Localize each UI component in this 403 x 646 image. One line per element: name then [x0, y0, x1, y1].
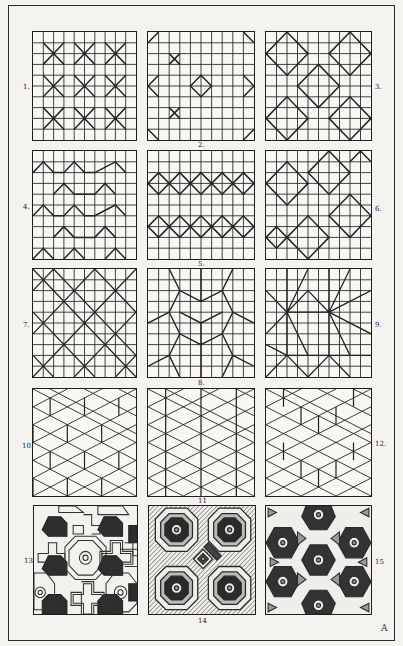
- cube-lattice-pattern: [33, 389, 136, 496]
- tile-14: [148, 505, 256, 615]
- sparse-diagonal-pattern: [148, 32, 254, 140]
- hexagon-triangle-shaded-pattern: [266, 506, 371, 614]
- triangular-lattice-pattern: [148, 389, 254, 496]
- tile-14-label: 14: [198, 618, 207, 625]
- tile-4-label: 4.: [23, 204, 30, 211]
- tile-7-label: 7.: [23, 322, 30, 329]
- tile-11: [147, 388, 255, 497]
- tile-5-label: 5.: [198, 261, 205, 268]
- tile-5: [147, 150, 255, 260]
- diamond-pattern: [266, 32, 371, 140]
- artist-monogram: A: [381, 623, 388, 633]
- octagon-diamond-shaded-pattern: [149, 506, 255, 614]
- tile-2-label: 2.: [198, 142, 205, 149]
- dense-diamond-pattern: [266, 151, 371, 259]
- octagon-cross-shaded-pattern: [34, 506, 137, 614]
- tile-4: [32, 150, 137, 260]
- hexagon-lattice-pattern: [266, 389, 371, 496]
- tile-11-label: 11: [198, 498, 207, 505]
- tile-13-label: 13: [24, 558, 33, 565]
- tile-3: [265, 31, 372, 141]
- star-polygon-pattern: [148, 269, 254, 377]
- tile-6: [265, 150, 372, 260]
- tile-10: [32, 388, 137, 497]
- tile-8-label: 8.: [198, 380, 205, 387]
- diagonal-lattice-pattern: [33, 269, 136, 377]
- tile-13: [33, 505, 138, 615]
- tile-1: [32, 31, 137, 141]
- tile-12-label: 12.: [375, 441, 386, 448]
- tile-15: [265, 505, 372, 615]
- tile-3-label: 3.: [375, 84, 382, 91]
- tile-2: [147, 31, 255, 141]
- tile-9-label: 9.: [375, 322, 382, 329]
- tile-1-label: 1.: [23, 84, 30, 91]
- tile-15-label: 15: [375, 559, 384, 566]
- tile-8: [147, 268, 255, 378]
- tile-10-label: 10.: [22, 443, 33, 450]
- diamond-chain-pattern: [148, 151, 254, 259]
- tile-7: [32, 268, 137, 378]
- radiating-star-pattern: [266, 269, 371, 377]
- chevron-pattern: [33, 151, 136, 259]
- tile-9: [265, 268, 372, 378]
- tile-6-label: 6.: [375, 206, 382, 213]
- octagon-cross-pattern: [33, 32, 136, 140]
- tile-12: [265, 388, 372, 497]
